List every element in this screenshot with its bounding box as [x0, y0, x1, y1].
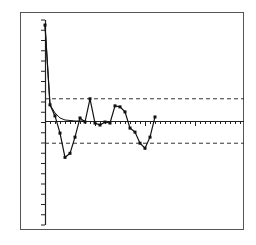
chart-container: [0, 0, 256, 245]
acf-chart: [0, 0, 256, 245]
y-axis: [41, 20, 46, 225]
